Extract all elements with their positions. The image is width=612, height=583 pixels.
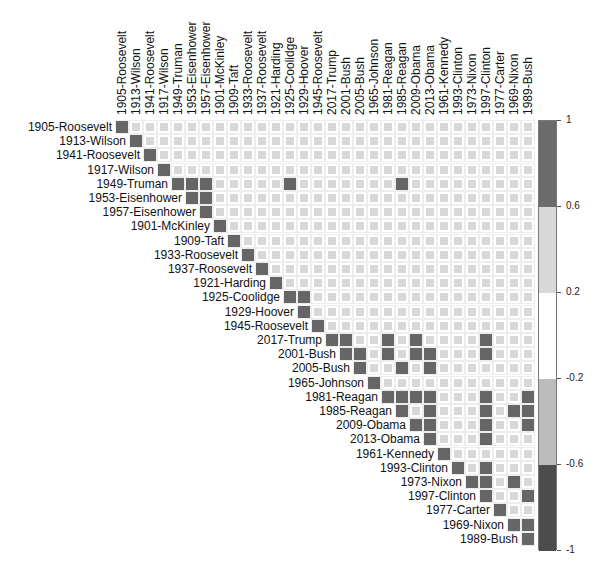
cell-fill [482, 180, 490, 188]
heatmap-cell [269, 276, 283, 290]
cell-fill [524, 478, 532, 486]
heatmap-cell [507, 432, 521, 446]
heatmap-cell [479, 461, 493, 475]
cell-fill [426, 180, 434, 188]
heatmap-cell [269, 205, 283, 219]
heatmap-cell [227, 120, 241, 134]
heatmap-cell [493, 347, 507, 361]
cell-fill [482, 123, 490, 131]
heatmap-cell [353, 333, 367, 347]
cell-fill [482, 265, 490, 273]
cell-fill [440, 336, 448, 344]
heatmap-cell [283, 191, 297, 205]
heatmap-cell [269, 262, 283, 276]
cell-fill [200, 206, 212, 218]
heatmap-cell [213, 191, 227, 205]
cell-fill [480, 405, 492, 417]
heatmap-cell [353, 191, 367, 205]
heatmap-cell [395, 347, 409, 361]
cell-fill [496, 393, 504, 401]
cell-fill [454, 279, 462, 287]
cell-fill [510, 336, 518, 344]
heatmap-cell [451, 404, 465, 418]
cell-fill [424, 433, 436, 445]
cell-fill [412, 194, 420, 202]
cell-fill [370, 293, 378, 301]
heatmap-cell [451, 461, 465, 475]
heatmap-cell [255, 191, 269, 205]
cell-fill [202, 151, 210, 159]
cell-fill [510, 435, 518, 443]
heatmap-cell [521, 532, 535, 546]
cell-fill [496, 308, 504, 316]
cell-fill [286, 208, 294, 216]
cell-fill [272, 166, 280, 174]
heatmap-cell [255, 262, 269, 276]
cell-fill [496, 194, 504, 202]
heatmap-cell [311, 262, 325, 276]
cell-fill [510, 492, 518, 500]
heatmap-cell [325, 219, 339, 233]
row-label: 1933-Roosevelt [38, 248, 238, 262]
heatmap-cell [283, 276, 297, 290]
column-label: 1961-Kennedy [437, 37, 451, 115]
heatmap-cell [339, 347, 353, 361]
colorbar [538, 120, 557, 550]
cell-fill [272, 137, 280, 145]
heatmap-cell [381, 262, 395, 276]
column-label: 1965-Johnson [367, 39, 381, 115]
heatmap-cell [521, 248, 535, 262]
cell-fill [174, 137, 182, 145]
cell-fill [468, 180, 476, 188]
heatmap-cell [409, 219, 423, 233]
heatmap-cell [521, 347, 535, 361]
cell-fill [440, 407, 448, 415]
row-label: 1921-Harding [66, 276, 266, 290]
colorbar-tick [557, 120, 561, 121]
heatmap-cell [493, 404, 507, 418]
heatmap-cell [479, 475, 493, 489]
cell-fill [370, 137, 378, 145]
cell-fill [328, 194, 336, 202]
heatmap-cell [395, 390, 409, 404]
heatmap-cell [507, 447, 521, 461]
heatmap-cell [451, 447, 465, 461]
cell-fill [468, 308, 476, 316]
heatmap-cell [521, 234, 535, 248]
heatmap-cell [465, 319, 479, 333]
cell-fill [454, 350, 462, 358]
cell-fill [440, 293, 448, 301]
heatmap-cell [283, 148, 297, 162]
cell-fill [510, 464, 518, 472]
heatmap-cell [283, 177, 297, 191]
heatmap-cell [479, 234, 493, 248]
cell-fill [482, 208, 490, 216]
heatmap-cell [395, 120, 409, 134]
heatmap-cell [367, 361, 381, 375]
heatmap-cell [493, 475, 507, 489]
heatmap-cell [171, 163, 185, 177]
cell-fill [468, 393, 476, 401]
heatmap-cell [381, 248, 395, 262]
cell-fill [440, 237, 448, 245]
cell-fill [482, 279, 490, 287]
cell-fill [398, 336, 406, 344]
cell-fill [314, 265, 322, 273]
heatmap-cell [479, 219, 493, 233]
heatmap-cell [437, 361, 451, 375]
heatmap-cell [479, 376, 493, 390]
heatmap-cell [423, 404, 437, 418]
heatmap-cell [507, 503, 521, 517]
heatmap-cell [395, 404, 409, 418]
heatmap-cell [255, 148, 269, 162]
heatmap-cell [297, 276, 311, 290]
heatmap-cell [493, 333, 507, 347]
heatmap-cell [367, 319, 381, 333]
cell-fill [272, 151, 280, 159]
cell-fill [244, 180, 252, 188]
cell-fill [454, 407, 462, 415]
cell-fill [384, 237, 392, 245]
heatmap-cell [507, 134, 521, 148]
cell-fill [510, 322, 518, 330]
heatmap-cell [479, 347, 493, 361]
